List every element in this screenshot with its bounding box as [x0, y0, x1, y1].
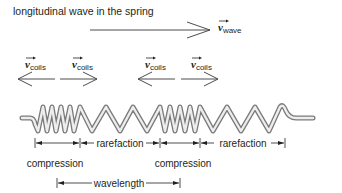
wave-velocity-label: vwave	[218, 20, 242, 36]
coil-velocity-label-1: vcoils	[25, 57, 46, 73]
spring	[22, 106, 313, 131]
diagram-title: longitudinal wave in the spring	[13, 5, 154, 17]
svg-text:vcoils: vcoils	[25, 58, 46, 72]
region-label-rarefaction-1: rarefaction	[96, 138, 143, 149]
region-label-compression-2: compression	[155, 158, 212, 169]
velocity-subscript: coils	[30, 63, 46, 72]
wavelength-label: wavelength	[93, 178, 145, 189]
region-label-rarefaction-2: rarefaction	[219, 138, 266, 149]
velocity-subscript: coils	[77, 63, 93, 72]
velocity-subscript: coils	[196, 63, 212, 72]
coil-velocity-label-2: vcoils	[72, 57, 93, 73]
coil-velocity-arrow-left-2	[138, 72, 175, 86]
coil-velocity-arrow-right-2	[181, 72, 218, 86]
coil-velocity-arrow-left-1	[18, 72, 55, 86]
svg-text:vwave: vwave	[218, 21, 242, 35]
coil-velocity-label-4: vcoils	[191, 57, 212, 73]
coil-velocity-arrow-right-1	[60, 72, 97, 86]
velocity-subscript: coils	[150, 63, 166, 72]
velocity-subscript: wave	[222, 26, 242, 35]
wave-velocity-arrow	[90, 22, 210, 38]
longitudinal-wave-diagram: longitudinal wave in the spring vwave vc…	[0, 0, 342, 193]
svg-text:vcoils: vcoils	[145, 58, 166, 72]
coil-velocity-label-3: vcoils	[145, 57, 166, 73]
svg-text:vcoils: vcoils	[72, 58, 93, 72]
region-label-compression-1: compression	[27, 158, 84, 169]
svg-text:vcoils: vcoils	[191, 58, 212, 72]
